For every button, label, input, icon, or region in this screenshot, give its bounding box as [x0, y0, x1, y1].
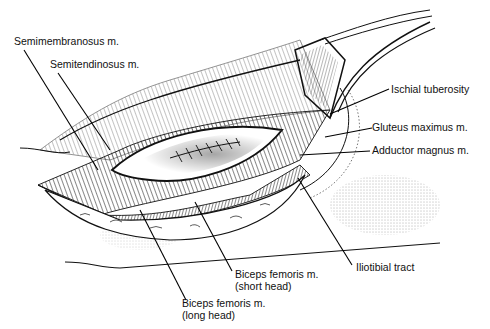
stipple-shading	[330, 175, 440, 235]
anatomical-figure: Semimembranosus m. Semitendinosus m. Isc…	[0, 0, 490, 329]
label-adductor-magnus: Adductor magnus m.	[372, 145, 469, 157]
label-ischial-tuberosity: Ischial tuberosity	[391, 84, 469, 96]
label-biceps-short-line1: Biceps femoris m.	[235, 269, 318, 281]
label-biceps-femoris-long-head: Biceps femoris m. (long head)	[182, 298, 265, 321]
label-biceps-long-line1: Biceps femoris m.	[182, 298, 265, 310]
label-semitendinosus: Semitendinosus m.	[50, 59, 139, 71]
label-biceps-short-line2: (short head)	[235, 281, 318, 293]
label-gluteus-maximus: Gluteus maximus m.	[372, 122, 468, 134]
label-biceps-long-line2: (long head)	[182, 310, 265, 322]
label-iliotibial-tract: Iliotibial tract	[356, 262, 414, 274]
label-semimembranosus: Semimembranosus m.	[14, 36, 119, 48]
label-biceps-femoris-short-head: Biceps femoris m. (short head)	[235, 269, 318, 292]
